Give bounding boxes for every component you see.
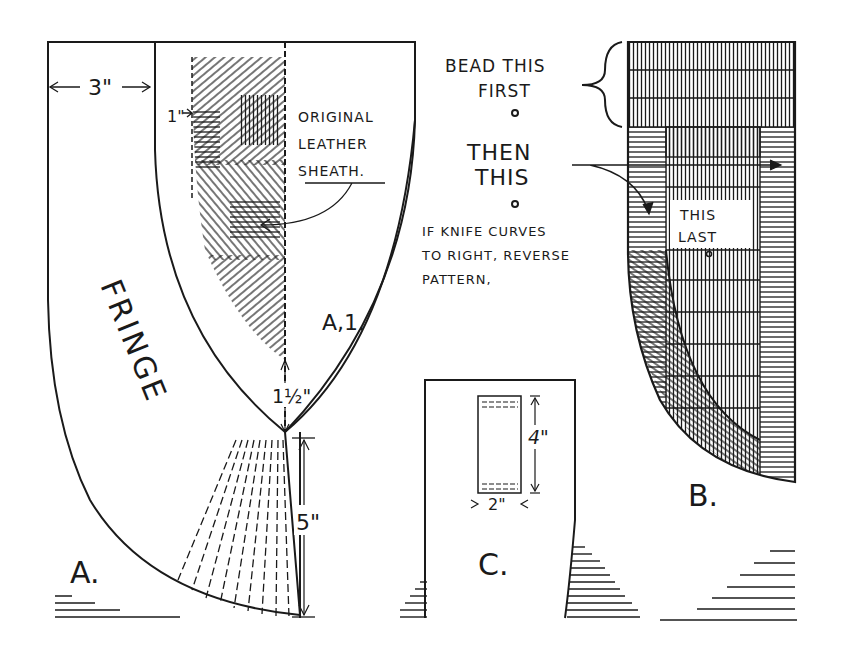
figure-a-label: A. bbox=[70, 555, 100, 590]
dim-tip-label: 1½" bbox=[272, 385, 311, 407]
brace bbox=[582, 42, 622, 127]
figure-b-label: B. bbox=[688, 478, 718, 513]
note-line1: IF KNIFE CURVES bbox=[422, 224, 547, 239]
step2-line2: THIS bbox=[474, 165, 529, 190]
original-sheath-hatch bbox=[185, 55, 290, 365]
fringe-label: FRINGE bbox=[94, 275, 175, 408]
dim-5in: 5" bbox=[292, 438, 320, 617]
callout-sheath: SHEATH. bbox=[298, 163, 365, 179]
callout-original: ORIGINAL bbox=[298, 109, 374, 125]
ground-shading-a bbox=[55, 596, 180, 617]
dim-1in: 1" bbox=[167, 107, 192, 126]
step2-line1: THEN bbox=[466, 140, 531, 165]
beaded-strip bbox=[478, 396, 521, 493]
figure-c-label: C. bbox=[478, 547, 508, 582]
figure-a: 3" 1" ORIGINAL LEATHER SHEATH. A,1. FRIN… bbox=[48, 42, 415, 618]
dim-4in-label: 4" bbox=[528, 426, 549, 448]
dim-1in-label: 1" bbox=[167, 107, 185, 126]
figure-b: THIS LAST BEAD THIS FIRST THEN THIS IF K… bbox=[421, 42, 797, 620]
dim-2in-label: 2" bbox=[488, 495, 506, 514]
step3-line1: THIS bbox=[679, 207, 716, 223]
label-a1: A,1. bbox=[322, 310, 365, 335]
dim-3in-label: 3" bbox=[88, 75, 112, 100]
ground-shading-b bbox=[660, 551, 797, 620]
step1-line1: BEAD THIS bbox=[445, 56, 546, 76]
step3-line2: LAST bbox=[678, 229, 717, 245]
dim-tip: 1½" bbox=[270, 360, 311, 432]
dim-3in: 3" bbox=[50, 75, 150, 100]
note-line2: TO RIGHT, REVERSE bbox=[421, 248, 570, 263]
dim-4in: 4" bbox=[527, 396, 549, 493]
bead-row-first bbox=[628, 42, 795, 127]
figure-c: 4" 2" C. bbox=[400, 380, 640, 618]
step1-line2: FIRST bbox=[478, 81, 531, 101]
ground-shading-c bbox=[400, 547, 640, 617]
note-line3: PATTERN, bbox=[422, 272, 492, 287]
bead-border-right bbox=[760, 127, 795, 487]
beaded-sheath-diagram: 3" 1" ORIGINAL LEATHER SHEATH. A,1. FRIN… bbox=[0, 0, 841, 669]
dim-5in-label: 5" bbox=[296, 510, 320, 535]
dim-2in: 2" bbox=[471, 495, 528, 514]
callout-leather: LEATHER bbox=[298, 136, 368, 152]
bead-pattern bbox=[628, 42, 795, 487]
